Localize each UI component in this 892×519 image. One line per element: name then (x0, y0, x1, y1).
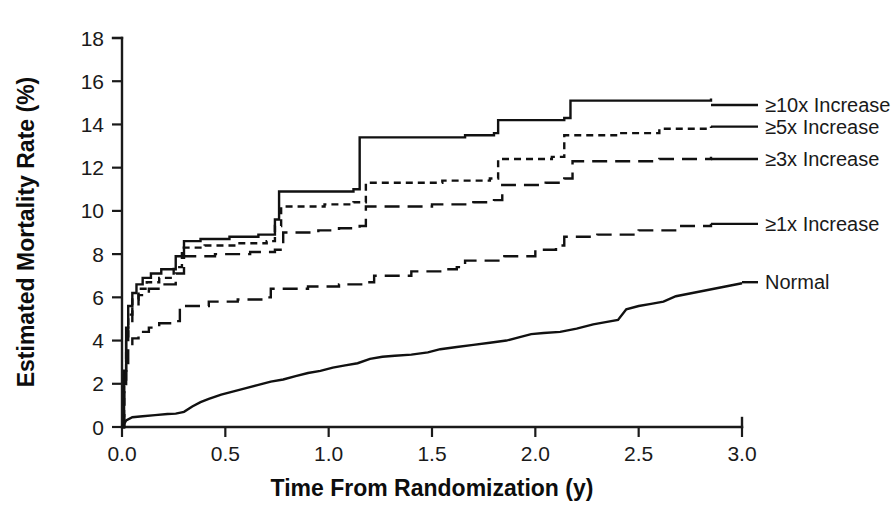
y-axis-title: Estimated Mortality Rate (%) (13, 77, 39, 388)
y-tick-label: 6 (92, 286, 104, 309)
chart-legend: ≥10x Increase≥5x Increase≥3x Increase≥1x… (711, 94, 891, 293)
y-axis-ticks: 024681012141618 (81, 27, 122, 439)
y-tick-label: 0 (92, 416, 104, 439)
curve-3 (122, 224, 711, 427)
data-curves (122, 99, 742, 427)
x-tick-label: 3.0 (727, 442, 756, 465)
curve-4 (122, 283, 742, 427)
x-tick-label: 2.0 (521, 442, 550, 465)
legend-label-1: ≥5x Increase (765, 116, 879, 138)
figure-panel: 024681012141618 0.00.51.01.52.02.53.0 ≥1… (0, 0, 892, 519)
y-tick-label: 2 (92, 372, 104, 395)
curve-2 (122, 157, 711, 427)
x-axis-title: Time From Randomization (y) (271, 475, 594, 501)
y-tick-label: 18 (81, 27, 104, 50)
x-tick-label: 1.5 (417, 442, 446, 465)
legend-label-3: ≥1x Increase (765, 213, 879, 235)
curve-0 (122, 99, 711, 427)
y-tick-label: 10 (81, 199, 104, 222)
x-axis-ticks: 0.00.51.01.52.02.53.0 (107, 427, 756, 465)
y-tick-label: 16 (81, 70, 104, 93)
curve-1 (122, 127, 711, 427)
legend-label-4: Normal (765, 271, 829, 293)
y-tick-label: 12 (81, 156, 104, 179)
x-tick-label: 2.5 (624, 442, 653, 465)
y-tick-label: 4 (92, 329, 104, 352)
x-tick-label: 0.0 (107, 442, 136, 465)
legend-label-2: ≥3x Increase (765, 148, 879, 170)
y-tick-label: 14 (81, 113, 105, 136)
x-tick-label: 1.0 (314, 442, 343, 465)
plot-axes (113, 38, 742, 427)
x-tick-label: 0.5 (211, 442, 240, 465)
legend-label-0: ≥10x Increase (765, 94, 891, 116)
mortality-rate-chart: 024681012141618 0.00.51.01.52.02.53.0 ≥1… (0, 0, 892, 519)
y-tick-label: 8 (92, 243, 104, 266)
